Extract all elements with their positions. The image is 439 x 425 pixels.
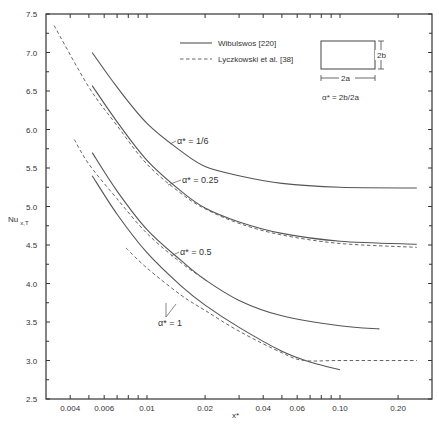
duct-cross-section-inset: 2b 2a α* = 2b/2a — [321, 41, 387, 102]
series-curve — [126, 248, 417, 361]
x-tick-label: 0.006 — [94, 404, 115, 413]
label-alpha-0-5: α* = 0.5 — [180, 247, 211, 257]
series-curve — [92, 86, 417, 245]
width-label: 2a — [341, 74, 350, 83]
x-tick-label: 0.02 — [197, 404, 213, 413]
series-curve — [74, 140, 205, 280]
y-tick-label: 6.0 — [26, 126, 38, 135]
x-tick-label: 0.20 — [390, 404, 406, 413]
y-tick-label: 4.5 — [26, 241, 38, 250]
legend-dashed-label: Lyczkowski et al. [38] — [218, 55, 293, 64]
label-alpha-0-25: α* = 0.25 — [182, 175, 218, 185]
x-axis-title: x* — [232, 411, 239, 420]
x-tick-label: 0.01 — [139, 404, 155, 413]
y-tick-label: 4.0 — [26, 280, 38, 289]
legend: Wibulswos [220] Lyczkowski et al. [38] — [180, 39, 293, 64]
y-tick-label: 5.5 — [26, 164, 38, 173]
duct-rectangle — [321, 41, 375, 69]
y-axis-title: Nux,T — [8, 215, 29, 226]
y-tick-label: 3.5 — [26, 318, 38, 327]
label-alpha-1-6: α* = 1/6 — [177, 136, 208, 146]
x-tick-label: 0.06 — [289, 404, 305, 413]
y-tick-label: 6.5 — [26, 87, 38, 96]
y-tick-label: 7.0 — [26, 49, 38, 58]
height-label: 2b — [377, 51, 386, 60]
x-tick-label: 0.10 — [332, 404, 348, 413]
y-tick-label: 3.0 — [26, 357, 38, 366]
plot-frame — [46, 14, 432, 399]
nusselt-chart: 2.53.03.54.04.55.05.56.06.57.07.5 0.0040… — [0, 0, 439, 425]
label-alpha-1: α* = 1 — [158, 318, 182, 328]
x-tick-label: 0.04 — [255, 404, 271, 413]
y-tick-label: 7.5 — [26, 10, 38, 19]
series-curve — [92, 53, 417, 189]
y-tick-label: 5.0 — [26, 203, 38, 212]
series-curve — [92, 176, 340, 370]
data-curves — [54, 26, 417, 370]
legend-solid-label: Wibulswos [220] — [218, 39, 276, 48]
x-tick-label: 0.004 — [60, 404, 81, 413]
aspect-ratio-formula: α* = 2b/2a — [322, 93, 359, 102]
y-tick-label: 2.5 — [26, 395, 38, 404]
